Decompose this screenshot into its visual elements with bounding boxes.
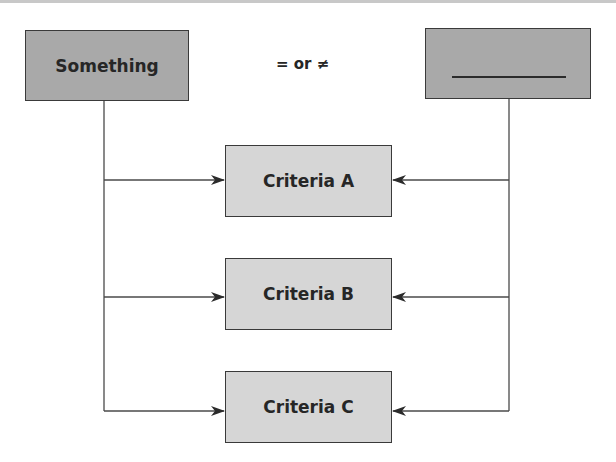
criteria-b-label: Criteria B	[263, 284, 354, 304]
criteria-c-box: Criteria C	[225, 371, 392, 443]
target-box-blank-line	[452, 76, 566, 78]
target-box	[425, 28, 591, 99]
relation-label: = or ≠	[276, 55, 329, 73]
criteria-b-box: Criteria B	[225, 258, 392, 330]
source-box-label: Something	[55, 56, 159, 76]
criteria-c-label: Criteria C	[263, 397, 353, 417]
criteria-a-box: Criteria A	[225, 145, 392, 217]
source-box: Something	[25, 30, 189, 101]
criteria-a-label: Criteria A	[263, 171, 354, 191]
